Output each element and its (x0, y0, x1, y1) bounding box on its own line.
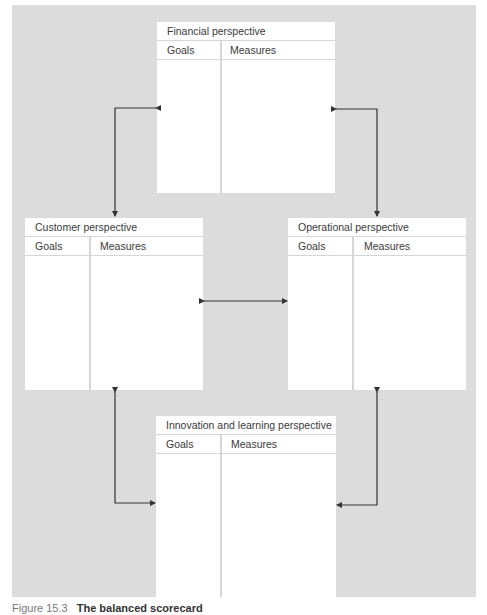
figure-caption: Figure 15.3 The balanced scorecard (12, 601, 203, 615)
arrow-customer-innovation (115, 392, 155, 503)
figure-title: The balanced scorecard (77, 602, 203, 614)
figure-number: Figure 15.3 (12, 602, 68, 614)
arrow-financial-customer (115, 108, 156, 216)
arrow-operational-innovation (337, 392, 377, 505)
arrow-financial-operational (336, 109, 377, 216)
